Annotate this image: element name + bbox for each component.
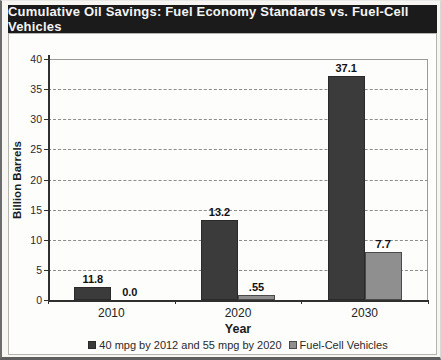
bar-40-mpg-by-2012-and-55-mpg-by-2020-2030 [328, 76, 365, 300]
y-tick-label-5: 5 [16, 264, 42, 276]
bar-value-label-2030-1: 7.7 [361, 238, 405, 251]
x-category-label-2030: 2030 [330, 306, 400, 320]
legend-marker-fuel-cell [289, 341, 297, 349]
bar-value-label-2020-0: 13.2 [198, 206, 242, 219]
x-axis-line [48, 300, 429, 302]
y-tick-label-10: 10 [16, 234, 42, 246]
legend-marker-fuel-economy [88, 341, 96, 349]
gridline-30 [48, 119, 428, 120]
x-category-label-2010: 2010 [76, 306, 146, 320]
y-tick-label-40: 40 [16, 53, 42, 65]
y-axis-line [48, 55, 50, 300]
chart-title-bar: Cumulative Oil Savings: Fuel Economy Sta… [8, 5, 437, 33]
bar-fuel-cell-vehicles-2030 [365, 252, 402, 300]
gridline-25 [48, 149, 428, 150]
gridline-20 [48, 180, 428, 181]
legend-item-fuel-cell: Fuel-Cell Vehicles [289, 339, 388, 351]
chart-title: Cumulative Oil Savings: Fuel Economy Sta… [8, 4, 437, 34]
bar-value-label-2030-0: 37.1 [324, 62, 368, 75]
legend-label-fuel-economy: 40 mpg by 2012 and 55 mpg by 2020 [99, 339, 281, 351]
bar-40-mpg-by-2012-and-55-mpg-by-2020-2010 [74, 287, 111, 300]
bar-value-label-2010-0: 11.8 [71, 273, 115, 286]
bar-40-mpg-by-2012-and-55-mpg-by-2020-2020 [201, 220, 238, 300]
chart-box: 051015202530354011.80.0201013.2.55202037… [8, 33, 437, 355]
page-frame: Cumulative Oil Savings: Fuel Economy Sta… [0, 0, 441, 360]
y-tick-label-30: 30 [16, 113, 42, 125]
y-tick-label-0: 0 [16, 294, 42, 306]
bar-fuel-cell-vehicles-2020 [238, 295, 275, 300]
y-axis-title: Billion Barrels [11, 125, 25, 235]
chart-legend: 40 mpg by 2012 and 55 mpg by 2020 Fuel-C… [48, 339, 428, 351]
x-category-label-2020: 2020 [203, 306, 273, 320]
gridline-35 [48, 89, 428, 90]
bar-value-label-2020-1: .55 [235, 281, 279, 294]
legend-item-fuel-economy: 40 mpg by 2012 and 55 mpg by 2020 [88, 339, 281, 351]
bar-value-label-2010-1: 0.0 [108, 286, 152, 299]
legend-label-fuel-cell: Fuel-Cell Vehicles [300, 339, 388, 351]
y-tick-label-35: 35 [16, 83, 42, 95]
x-axis-title: Year [48, 322, 428, 336]
